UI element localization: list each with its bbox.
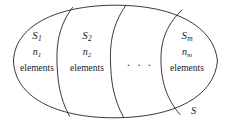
universe-ellipse-outline <box>14 5 218 118</box>
partition-divider-1 <box>57 8 73 117</box>
partition-divider-3 <box>161 10 182 115</box>
partition-divider-2 <box>110 6 125 117</box>
set-partition-diagram: S1 n1 elements S2 n2 elements . . . Sm n… <box>0 0 230 125</box>
universe-set-label: S <box>191 105 196 116</box>
continuation-ellipsis: . . . <box>127 55 153 70</box>
